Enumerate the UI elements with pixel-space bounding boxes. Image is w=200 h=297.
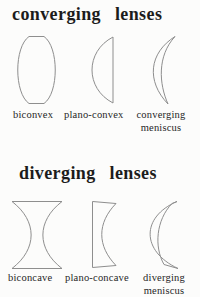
biconvex-lens-shape <box>16 35 57 105</box>
lens-types-diagram: converging lenses biconvex plano-convex … <box>0 0 200 297</box>
plano-concave-lens-shape <box>91 200 117 269</box>
plano-convex-lens-shape <box>89 36 115 104</box>
lens-label-biconcave: biconcave <box>8 272 52 285</box>
lens-label-plano-concave: plano-concave <box>65 272 129 285</box>
converging-meniscus-lens-shape <box>147 35 179 106</box>
diverging-meniscus-lens-shape <box>147 200 182 270</box>
diverging-lenses-title: diverging lenses <box>19 163 157 183</box>
lens-label-diverging-meniscus: diverging meniscus <box>135 272 193 297</box>
lens-label-converging-meniscus: converging meniscus <box>132 109 190 134</box>
lens-label-plano-convex: plano-convex <box>64 109 124 122</box>
biconcave-lens-shape <box>11 200 63 270</box>
converging-lenses-title: converging lenses <box>12 4 162 24</box>
lens-label-biconvex: biconvex <box>13 109 53 122</box>
